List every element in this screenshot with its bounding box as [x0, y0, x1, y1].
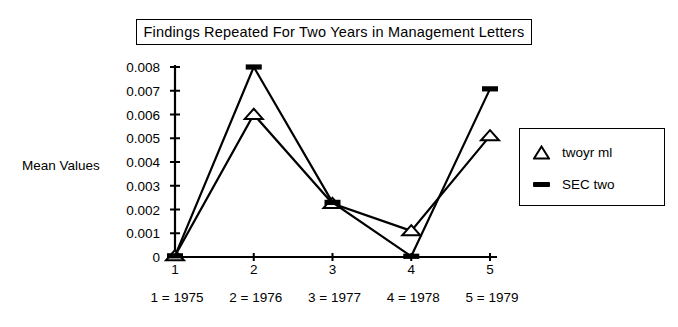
legend-item-twoyr-ml: twoyr ml: [520, 139, 666, 165]
data-point-marker: [325, 200, 341, 205]
data-point-marker: [403, 254, 419, 259]
thick-dash-icon: [520, 182, 562, 187]
data-point-marker: [246, 64, 262, 69]
data-point-marker: [402, 225, 420, 235]
data-point-marker: [481, 130, 499, 140]
chart-figure: Findings Repeated For Two Years in Manag…: [0, 0, 678, 327]
legend-label-twoyr-ml: twoyr ml: [562, 145, 612, 160]
axes: [170, 65, 497, 261]
data-point-marker: [245, 109, 263, 119]
data-point-marker: [482, 86, 498, 91]
data-series-layer: [166, 64, 499, 260]
series-twoyr-ml: [166, 109, 499, 260]
legend-box: twoyr ml SEC two: [519, 128, 665, 206]
data-point-marker: [167, 253, 183, 258]
legend-label-sec-two: SEC two: [562, 177, 615, 192]
series-sec-two: [167, 64, 498, 258]
legend-item-sec-two: SEC two: [520, 171, 666, 197]
open-triangle-icon: [520, 145, 562, 160]
